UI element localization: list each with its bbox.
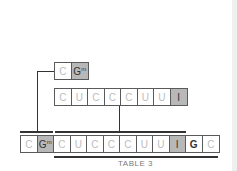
cell-label: G (39, 139, 47, 150)
page-edge (232, 0, 237, 171)
sequence-cell: C (54, 136, 71, 152)
sequence-cell: Gm (72, 63, 89, 79)
sequence-cell: C (55, 63, 72, 79)
cell-label: U (76, 92, 83, 103)
connector-top-vertical (37, 71, 38, 131)
cell-label: C (58, 139, 65, 150)
sequence-cell: C (88, 89, 105, 105)
sequence-cell: C (120, 136, 137, 152)
cell-label: U (158, 92, 165, 103)
cell-label: C (125, 92, 132, 103)
cell-label: I (177, 92, 180, 103)
sequence-cell: U (72, 89, 89, 105)
bottom-sequence-row: CGmCUCCCUUIGC (20, 135, 220, 153)
sequence-cell: U (137, 136, 154, 152)
cell-label: C (92, 92, 99, 103)
sequence-cell: I (170, 136, 187, 152)
bracket-right (55, 131, 186, 133)
cell-label: C (207, 139, 214, 150)
sequence-cell: C (104, 136, 121, 152)
cell-superscript: m (81, 66, 86, 72)
sequence-cell: C (21, 136, 38, 152)
sequence-cell: U (154, 89, 171, 105)
cell-label: U (141, 139, 148, 150)
cell-label: U (75, 139, 82, 150)
sequence-cell: C (87, 136, 104, 152)
table-caption: TABLE 3 (118, 159, 153, 168)
underline-bottom (54, 156, 218, 158)
connector-top-horizontal (37, 71, 54, 72)
sequence-cell: I (171, 89, 188, 105)
middle-sequence-row: CUCCCUUI (54, 88, 188, 106)
top-sequence-row: CGm (54, 62, 89, 80)
sequence-cell: C (203, 136, 220, 152)
sequence-cell: G (186, 136, 203, 152)
sequence-cell: C (55, 89, 72, 105)
cell-label: G (73, 66, 81, 77)
cell-label: U (157, 139, 164, 150)
connector-middle-vertical (119, 106, 120, 131)
sequence-cell: C (121, 89, 138, 105)
cell-label: I (176, 139, 179, 150)
cell-label: C (124, 139, 131, 150)
sequence-cell: U (153, 136, 170, 152)
sequence-cell: C (105, 89, 122, 105)
cell-label: U (142, 92, 149, 103)
cell-label: C (109, 92, 116, 103)
bracket-left (20, 131, 53, 133)
cell-label: G (190, 139, 198, 150)
sequence-cell: Gm (38, 136, 55, 152)
cell-label: C (108, 139, 115, 150)
cell-label: C (59, 92, 66, 103)
cell-label: C (59, 66, 66, 77)
sequence-cell: U (71, 136, 88, 152)
cell-label: C (25, 139, 32, 150)
cell-superscript: m (47, 139, 52, 145)
cell-label: C (91, 139, 98, 150)
sequence-cell: U (138, 89, 155, 105)
